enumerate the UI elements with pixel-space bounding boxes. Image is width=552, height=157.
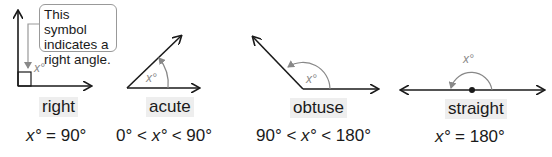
callout-line: right angle. — [44, 52, 112, 67]
formula-acute: 0° < x° < 90° — [116, 126, 212, 146]
label-acute: acute — [146, 97, 194, 117]
formula-straight: x° = 180° — [435, 127, 505, 147]
straight-angle-figure: x° — [401, 52, 544, 93]
svg-text:x°: x° — [145, 71, 157, 85]
callout-line: indicates a — [44, 37, 112, 52]
obtuse-angle-figure: x° — [253, 37, 378, 89]
svg-text:x°: x° — [305, 72, 317, 86]
label-right: right — [39, 97, 78, 117]
label-straight: straight — [445, 99, 507, 119]
acute-angle-figure: x° — [127, 36, 199, 88]
label-obtuse: obtuse — [290, 98, 347, 118]
formula-obtuse: 90° < x° < 180° — [256, 126, 371, 146]
callout-line: This symbol — [44, 7, 112, 37]
right-angle-symbol — [18, 72, 31, 86]
right-angle-callout: This symbol indicates a right angle. — [39, 4, 117, 52]
svg-text:x°: x° — [462, 52, 474, 66]
formula-right: x° = 90° — [26, 126, 86, 146]
